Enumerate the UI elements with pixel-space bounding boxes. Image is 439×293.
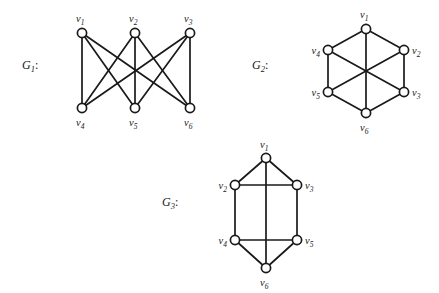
edge-layer	[235, 158, 297, 268]
graph-g1: v1v2v3v4v5v6G1:	[22, 13, 195, 131]
graph-edge-v1-v3	[266, 158, 297, 185]
graph-edge-v1-v2	[366, 29, 404, 50]
graph-vertex-v5	[292, 235, 301, 244]
vertex-label-v5: v5	[129, 117, 138, 131]
graph-edge-v3-v6	[366, 92, 404, 113]
edge-layer	[328, 29, 404, 113]
vertex-label-v2: v2	[129, 13, 138, 27]
graph-figure: v1v2v3v4v5v6G1:v1v2v3v4v5v6G2:v1v2v3v4v5…	[0, 0, 439, 293]
vertex-label-v6: v6	[184, 117, 193, 131]
graph-vertex-v5	[130, 103, 139, 112]
edge-layer	[82, 33, 190, 108]
graph-title-g3: G3:	[162, 195, 178, 211]
graph-vertex-v3	[185, 28, 194, 37]
vertex-label-v2: v2	[219, 180, 228, 194]
graph-vertex-v2	[130, 28, 139, 37]
graph-vertex-v4	[230, 235, 239, 244]
graph-g2: v1v2v3v4v5v6G2:	[252, 9, 421, 136]
graph-vertex-v3	[292, 180, 301, 189]
graph-vertex-v4	[323, 45, 332, 54]
vertex-label-v3: v3	[305, 180, 314, 194]
graph-vertex-v6	[185, 103, 194, 112]
graph-vertex-v5	[323, 87, 332, 96]
vertex-label-v5: v5	[305, 235, 314, 249]
graph-title-g1: G1:	[22, 58, 38, 74]
vertex-label-v5: v5	[312, 87, 321, 101]
graph-diagram-canvas: v1v2v3v4v5v6G1:v1v2v3v4v5v6G2:v1v2v3v4v5…	[0, 0, 439, 293]
vertex-label-v4: v4	[312, 45, 321, 59]
graph-edge-v4-v1	[328, 29, 366, 50]
graph-edge-v1-v2	[235, 158, 266, 185]
graph-g3: v1v2v3v4v5v6G3:	[162, 139, 314, 291]
graph-vertex-v6	[361, 108, 370, 117]
vertex-label-v3: v3	[184, 13, 193, 27]
vertex-label-v4: v4	[76, 117, 85, 131]
vertex-label-v6: v6	[360, 122, 369, 136]
graph-title-g2: G2:	[252, 58, 268, 74]
graph-edge-v4-v6	[235, 240, 266, 268]
vertex-label-v2: v2	[412, 45, 421, 59]
graph-vertex-v1	[261, 153, 270, 162]
graph-vertex-v6	[261, 263, 270, 272]
graph-edge-v6-v5	[328, 92, 366, 113]
vertex-label-v1: v1	[76, 13, 84, 27]
graph-vertex-v2	[399, 45, 408, 54]
graph-vertex-v1	[77, 28, 86, 37]
vertex-label-v1: v1	[360, 9, 368, 23]
graph-vertex-v1	[361, 24, 370, 33]
vertex-label-v3: v3	[412, 87, 421, 101]
vertex-label-v6: v6	[260, 277, 269, 291]
graph-vertex-v4	[77, 103, 86, 112]
graph-vertex-v2	[230, 180, 239, 189]
graph-edge-v5-v6	[266, 240, 297, 268]
graph-vertex-v3	[399, 87, 408, 96]
vertex-label-v1: v1	[260, 139, 268, 153]
vertex-label-v4: v4	[219, 235, 228, 249]
